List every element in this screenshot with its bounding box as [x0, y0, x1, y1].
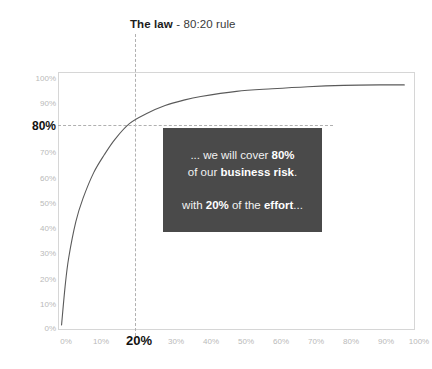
y-tick-40: 40%	[10, 224, 56, 233]
callout-line-1-bold: 80%	[272, 149, 295, 161]
x-tick-10: 10%	[93, 337, 109, 346]
x-tick-40: 40%	[203, 337, 219, 346]
y-tick-80-highlight: 80%	[6, 119, 56, 133]
chart-title-rest: - 80:20 rule	[173, 18, 236, 30]
x-tick-50: 50%	[238, 337, 254, 346]
x-tick-80: 80%	[343, 337, 359, 346]
x-tick-60: 60%	[273, 337, 289, 346]
callout-line-2: of our business risk.	[188, 164, 297, 181]
chart-title: The law - 80:20 rule	[130, 18, 236, 30]
chart-title-strong: The law	[130, 18, 173, 30]
y-tick-30: 30%	[10, 249, 56, 258]
x-tick-20-highlight: 20%	[126, 333, 152, 348]
callout-line-2-post: .	[294, 166, 297, 178]
y-tick-70: 70%	[10, 148, 56, 157]
y-tick-0: 0%	[10, 324, 56, 333]
x-tick-100: 100%	[409, 337, 429, 346]
y-tick-100: 100%	[10, 74, 56, 83]
callout-line-3-bold-2: effort	[264, 199, 293, 211]
callout-line-2-bold: business risk	[220, 166, 294, 178]
callout-line-3-post: ...	[293, 199, 303, 211]
callout-box: ... we will cover 80% of our business ri…	[163, 128, 322, 232]
y-tick-90: 90%	[10, 99, 56, 108]
y-tick-20: 20%	[10, 275, 56, 284]
x-tick-0: 0%	[60, 337, 72, 346]
callout-line-2-pre: of our	[188, 166, 221, 178]
callout-line-1-pre: ... we will cover	[190, 149, 271, 161]
callout-line-3-pre: with	[182, 199, 206, 211]
y-tick-60: 60%	[10, 174, 56, 183]
callout-line-1: ... we will cover 80%	[190, 147, 294, 164]
y-tick-50: 50%	[10, 199, 56, 208]
x-tick-70: 70%	[308, 337, 324, 346]
x-tick-30: 30%	[168, 337, 184, 346]
callout-line-3: with 20% of the effort...	[182, 197, 303, 214]
y-tick-10: 10%	[10, 300, 56, 309]
callout-line-3-mid: of the	[229, 199, 264, 211]
x-tick-90: 90%	[378, 337, 394, 346]
y-axis-labels: 100% 90% 80% 70% 60% 50% 40% 30% 20% 10%…	[0, 0, 56, 369]
callout-line-3-bold-1: 20%	[206, 199, 229, 211]
chart-canvas: The law - 80:20 rule 100% 90% 80% 70% 60…	[0, 0, 432, 369]
